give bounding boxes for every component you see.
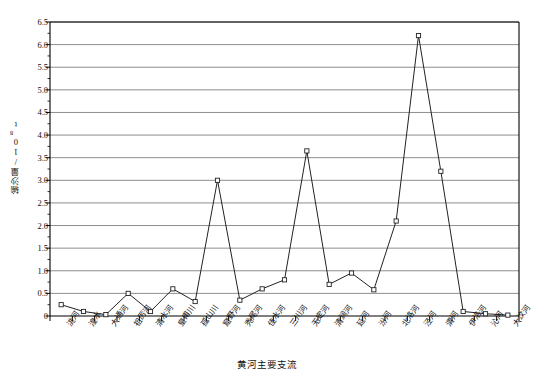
x-axis-tick-label: 无定河 — [310, 303, 331, 328]
x-axis-tick-label: 清涧河 — [333, 303, 354, 328]
x-axis-title: 黄河主要支流 — [0, 357, 533, 371]
x-axis-tick-label: 沁河 — [489, 310, 506, 328]
x-axis-tick-label: 湟水 — [87, 310, 104, 328]
x-axis-tick-labels: 洮河湟水大通河祖厉河清水河皇甫川孤山川窟野河秃尾河佳水河三川河无定河清涧河延河汾… — [0, 0, 533, 378]
x-axis-tick-label: 窟野河 — [221, 303, 242, 328]
x-axis-tick-label: 伊洛河 — [467, 303, 488, 328]
x-axis-tick-label: 延河 — [355, 310, 372, 328]
x-axis-tick-label: 渭河 — [444, 310, 461, 328]
x-axis-tick-label: 三川河 — [288, 303, 309, 328]
x-axis-tick-label: 泾河 — [422, 310, 439, 328]
x-axis-tick-label: 汾河 — [377, 310, 394, 328]
x-axis-tick-label: 大汶河 — [511, 303, 532, 328]
x-axis-tick-label: 孤山川 — [199, 303, 220, 328]
sediment-load-line-chart: 输沙量/108t 00.51.01.52.02.53.03.54.04.55.0… — [0, 0, 533, 378]
x-axis-tick-label: 皇甫川 — [176, 303, 197, 328]
x-axis-tick-label: 清水河 — [154, 303, 175, 328]
x-axis-tick-label: 北洛河 — [400, 303, 421, 328]
x-axis-tick-label: 洮河 — [65, 310, 82, 328]
x-axis-tick-label: 大通河 — [109, 303, 130, 328]
x-axis-tick-label: 佳水河 — [266, 303, 287, 328]
x-axis-tick-label: 祖厉河 — [132, 303, 153, 328]
x-axis-tick-label: 秃尾河 — [243, 303, 264, 328]
